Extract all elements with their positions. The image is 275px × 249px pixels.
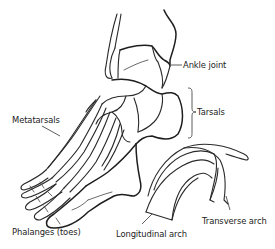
talus bbox=[118, 45, 170, 88]
arch-model bbox=[146, 144, 248, 220]
tibia bbox=[164, 10, 176, 64]
label-longitudinal-arch: Longitudinal arch bbox=[116, 230, 187, 238]
label-tarsals: Tarsals bbox=[197, 108, 225, 116]
foot-anatomy-diagram: Ankle joint Tarsals Metatarsals Phalange… bbox=[0, 0, 275, 249]
label-ankle-joint: Ankle joint bbox=[183, 61, 226, 69]
label-phalanges: Phalanges (toes) bbox=[12, 228, 81, 236]
label-transverse-arch: Transverse arch bbox=[202, 217, 267, 225]
metatarsal-bones bbox=[46, 96, 136, 192]
label-metatarsals: Metatarsals bbox=[12, 116, 60, 124]
